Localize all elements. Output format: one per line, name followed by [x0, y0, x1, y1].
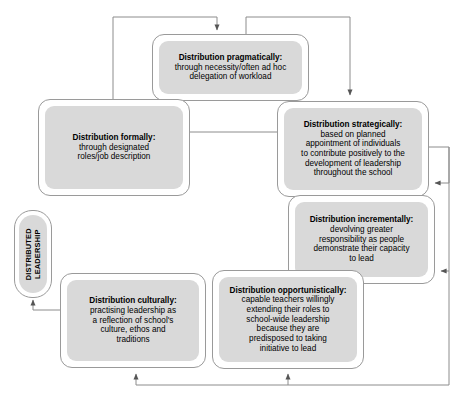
node-opportunistically-line-1: capable teachers willingly — [242, 295, 335, 304]
node-culturally-heading: Distribution culturally: — [89, 296, 176, 305]
node-distribution-opportunistically: Distribution opportunistically: capable … — [212, 270, 364, 369]
node-pragmatically-line-1: through necessity/often ad hoc — [175, 63, 287, 72]
node-opportunistically-line-4: because they are — [257, 324, 320, 333]
node-formally-line-2: roles/job description — [78, 152, 151, 161]
node-distribution-culturally: Distribution culturally: practising lead… — [60, 273, 206, 368]
node-incrementally-line-3: demonstrate their capacity — [313, 244, 409, 253]
node-opportunistically-panel: Distribution opportunistically: capable … — [219, 277, 357, 362]
node-formally-line-1: through designated — [79, 143, 149, 152]
node-distribution-pragmatically: Distribution pragmatically: through nece… — [152, 34, 309, 101]
node-pragmatically-panel: Distribution pragmatically: through nece… — [159, 41, 302, 94]
node-opportunistically-line-5: predisposed to taking — [249, 334, 327, 343]
node-strategically-heading: Distribution strategically: — [304, 120, 403, 129]
node-strategically-line-2: appointment of individuals — [306, 139, 401, 148]
node-formally-heading: Distribution formally: — [73, 133, 156, 142]
distributed-leadership-line-1: DISTRIBUTED — [24, 228, 33, 280]
node-opportunistically-line-3: school-wide leadership — [246, 315, 329, 324]
node-strategically-line-3: to contribute positively to the — [301, 149, 405, 158]
node-strategically-line-4: development of leadership — [305, 159, 401, 168]
connector-culturally-to-distributed-leadership — [33, 300, 60, 310]
node-incrementally-heading: Distribution incrementally: — [310, 215, 414, 224]
node-opportunistically-line-2: extending their roles to — [247, 305, 330, 314]
node-culturally-line-1: practising leadership as — [90, 306, 176, 315]
node-culturally-panel: Distribution culturally: practising lead… — [67, 280, 199, 361]
node-opportunistically-line-6: initiative to lead — [260, 344, 316, 353]
node-distribution-strategically: Distribution strategically: based on pla… — [277, 101, 429, 197]
node-culturally-line-4: traditions — [116, 335, 149, 344]
node-strategically-panel: Distribution strategically: based on pla… — [284, 108, 422, 190]
node-culturally-line-2: a reflection of school's — [93, 316, 174, 325]
distributed-leadership-label: DISTRIBUTED LEADERSHIP — [24, 228, 43, 280]
node-incrementally-line-4: to lead — [349, 254, 374, 263]
diagram-canvas: Distribution pragmatically: through nece… — [0, 0, 462, 406]
node-strategically-line-5: throughout the school — [314, 168, 393, 177]
node-strategically-line-1: based on planned — [320, 130, 385, 139]
node-incrementally-line-1: devolving greater — [330, 225, 393, 234]
node-culturally-line-3: culture, ethos and — [100, 325, 165, 334]
node-pragmatically-line-2: delegation of workload — [190, 72, 272, 81]
node-distribution-formally: Distribution formally: through designate… — [38, 99, 190, 196]
distributed-leadership-line-2: LEADERSHIP — [33, 229, 42, 279]
node-incrementally-panel: Distribution incrementally: devolving gr… — [295, 202, 428, 277]
node-distributed-leadership: DISTRIBUTED LEADERSHIP — [14, 210, 52, 298]
node-incrementally-line-2: responsibility as people — [319, 235, 404, 244]
node-opportunistically-heading: Distribution opportunistically: — [230, 286, 347, 295]
node-formally-panel: Distribution formally: through designate… — [45, 106, 183, 189]
node-pragmatically-heading: Distribution pragmatically: — [179, 53, 283, 62]
node-distributed-leadership-panel: DISTRIBUTED LEADERSHIP — [19, 215, 47, 293]
